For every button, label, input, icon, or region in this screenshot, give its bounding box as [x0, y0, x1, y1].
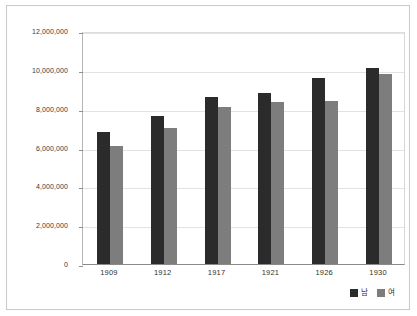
y-axis-tick-label: 12,000,000	[32, 28, 68, 35]
bar-male-1921	[258, 93, 271, 264]
x-axis-tick-label: 1912	[136, 268, 190, 277]
bar-group	[97, 33, 123, 264]
y-axis-tick-label: 2,000,000	[36, 222, 68, 229]
figure-frame: 02,000,0004,000,0006,000,0008,000,00010,…	[6, 5, 410, 310]
bar-male-1917	[205, 97, 218, 264]
legend-swatch-icon	[377, 289, 385, 297]
bar-female-1930	[379, 74, 392, 264]
x-axis-tick-label: 1917	[190, 268, 244, 277]
bar-female-1921	[271, 102, 284, 264]
x-axis-tick-label: 1926	[297, 268, 351, 277]
legend-item-female: 여	[377, 289, 395, 297]
bar-female-1909	[110, 146, 123, 264]
bar-male-1912	[151, 116, 164, 264]
bar-female-1917	[218, 107, 231, 264]
y-axis-tick	[79, 266, 83, 267]
legend-swatch-icon	[350, 289, 358, 297]
x-axis-tick-label: 1921	[244, 268, 298, 277]
y-axis-labels: 02,000,0004,000,0006,000,0008,000,00010,…	[7, 32, 77, 265]
bar-group	[205, 33, 231, 264]
y-axis-tick-label: 8,000,000	[36, 106, 68, 113]
legend-item-male: 남	[350, 289, 368, 297]
bar-series-container	[83, 33, 404, 264]
x-axis-labels: 190919121917192119261930	[82, 268, 405, 282]
chart-legend: 남여	[350, 289, 395, 297]
bar-male-1926	[312, 78, 325, 264]
y-axis-tick-label: 0	[64, 261, 68, 268]
legend-label: 남	[361, 289, 368, 297]
bar-group	[366, 33, 392, 264]
x-axis-tick-label: 1909	[82, 268, 136, 277]
bar-group	[151, 33, 177, 264]
bar-female-1912	[164, 128, 177, 264]
chart-figure: 02,000,0004,000,0006,000,0008,000,00010,…	[0, 0, 417, 316]
y-axis-tick-label: 4,000,000	[36, 183, 68, 190]
y-axis-tick-label: 6,000,000	[36, 145, 68, 152]
bar-male-1930	[366, 68, 379, 264]
bar-female-1926	[325, 101, 338, 264]
y-axis-tick-label: 10,000,000	[32, 67, 68, 74]
bar-group	[258, 33, 284, 264]
plot-area	[82, 32, 405, 265]
bar-male-1909	[97, 132, 110, 264]
legend-label: 여	[388, 289, 395, 297]
x-axis-tick-label: 1930	[351, 268, 405, 277]
bar-group	[312, 33, 338, 264]
